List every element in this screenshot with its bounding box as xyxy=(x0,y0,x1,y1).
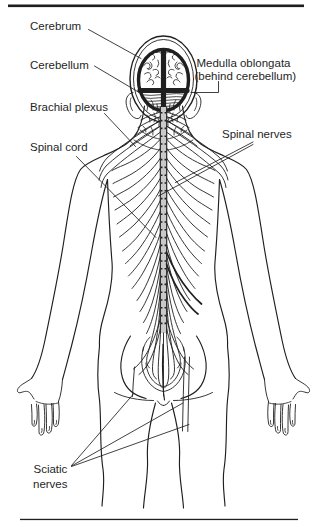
leader-spinal-nerves xyxy=(159,142,254,196)
leader-sciatic-nerves xyxy=(72,395,190,467)
label-brachial-plexus: Brachial plexus xyxy=(30,101,108,113)
body-right-half-mirror xyxy=(164,52,310,508)
sacral-nerves xyxy=(134,290,164,392)
finger-index xyxy=(53,402,59,427)
finger-ring xyxy=(39,405,45,436)
hand-drawing xyxy=(17,379,62,436)
palm-edge xyxy=(59,380,63,402)
label-spinal-cord: Spinal cord xyxy=(30,141,88,153)
torso-leg-outline xyxy=(98,180,112,507)
sciatic-nerve-left xyxy=(133,367,135,397)
bottom-rule xyxy=(20,519,298,520)
spinal-cord-drawing xyxy=(160,107,166,396)
label-cerebellum: Cerebellum xyxy=(30,59,89,71)
figure-page: Cerebrum Cerebellum Medulla oblongata (b… xyxy=(0,0,313,527)
inner-leg-outline xyxy=(144,403,156,508)
spinal-cord-band xyxy=(160,107,166,333)
label-medulla-line2: (behind cerebellum) xyxy=(195,70,297,82)
nervous-system-diagram: Cerebrum Cerebellum Medulla oblongata (b… xyxy=(0,0,313,527)
leader-cerebrum xyxy=(89,30,142,59)
body-left-half xyxy=(17,52,163,508)
ear-drawing xyxy=(126,93,141,119)
label-spinal-nerves: Spinal nerves xyxy=(222,128,292,140)
sciatic-nerve-right-a xyxy=(183,357,185,431)
label-cerebrum: Cerebrum xyxy=(30,20,81,32)
finger-middle xyxy=(46,404,52,434)
label-sciatic-line1: Sciatic xyxy=(34,463,68,475)
label-medulla-line1: Medulla oblongata xyxy=(197,57,292,69)
ear-outline xyxy=(126,93,141,119)
sciatic-nerve-right-b xyxy=(188,357,190,432)
thoracic-nerves xyxy=(112,139,161,289)
leader-brachial-plexus xyxy=(105,114,136,147)
ear-inner-fold xyxy=(130,98,132,111)
knuckle-line xyxy=(36,402,58,405)
sciatic-nerve-lines xyxy=(133,357,190,432)
thumb-outline xyxy=(17,379,34,400)
top-rule xyxy=(8,5,304,8)
label-sciatic-line2: nerves xyxy=(33,478,68,490)
crotch-line xyxy=(158,401,164,406)
lumbar-nerves xyxy=(137,244,161,334)
